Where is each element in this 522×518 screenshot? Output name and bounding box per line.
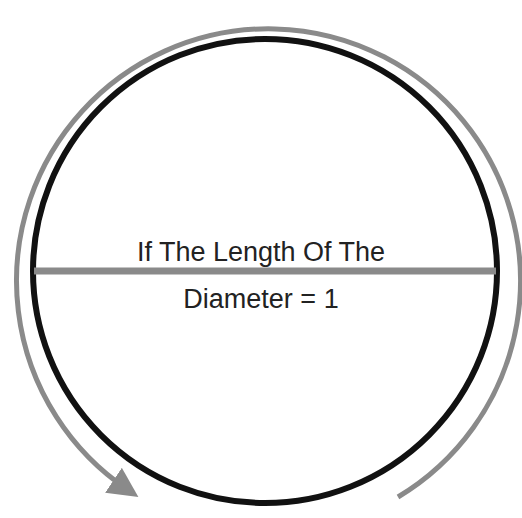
circle-diameter-diagram: If The Length Of The Diameter = 1 (0, 0, 522, 518)
diameter-label-line1: If The Length Of The (0, 236, 522, 268)
diameter-label-line2: Diameter = 1 (0, 283, 522, 315)
